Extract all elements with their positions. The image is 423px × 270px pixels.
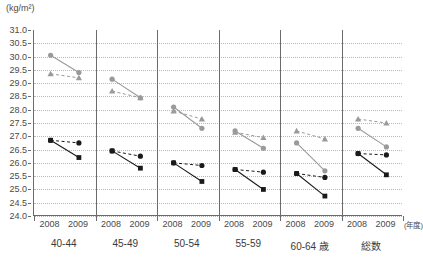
series-line (51, 74, 79, 78)
data-point-marker (199, 163, 204, 168)
data-point-marker (356, 126, 361, 131)
data-point-marker (76, 140, 81, 145)
x-axis-year-label: 2009 (191, 219, 211, 229)
data-point-marker (261, 187, 266, 192)
x-axis-year-label: 2008 (40, 219, 60, 229)
y-axis-tick-mark (28, 189, 31, 190)
y-axis-tick-label: 27.5 (0, 118, 27, 128)
x-axis-year-label: 2009 (252, 219, 272, 229)
data-point-marker (199, 179, 204, 184)
y-axis-unit-label: (kg/m²) (6, 3, 35, 13)
x-axis-year-labels: 2008200920082009200820092008200920082009… (33, 219, 402, 235)
y-axis-tick-mark (28, 150, 31, 151)
data-point-marker (199, 116, 205, 122)
series-line (358, 119, 386, 123)
x-axis-group-label: 55-59 (235, 238, 261, 249)
data-point-marker (76, 155, 81, 160)
series-line (358, 154, 386, 175)
data-point-marker (48, 53, 53, 58)
x-axis-year-label: 2008 (163, 219, 183, 229)
series-line (235, 170, 263, 173)
y-axis-tick-label: 24.5 (0, 198, 27, 208)
data-point-marker (294, 171, 299, 176)
x-axis-year-label: 2008 (101, 219, 121, 229)
data-series-layer (34, 30, 403, 216)
data-point-marker (356, 151, 361, 156)
data-point-marker (322, 194, 327, 199)
series-line (358, 154, 386, 155)
data-point-marker (199, 126, 204, 131)
data-point-marker (171, 160, 176, 165)
year-unit-note: (年度) (404, 219, 423, 230)
data-point-marker (48, 71, 54, 77)
y-axis-tick-mark (28, 203, 31, 204)
y-axis-tick-mark (28, 83, 31, 84)
y-axis-tick-label: 25.0 (0, 184, 27, 194)
data-point-marker (76, 70, 81, 75)
x-axis-year-label: 2008 (286, 219, 306, 229)
series-line (112, 151, 140, 168)
y-axis-tick-label: 30.0 (0, 52, 27, 62)
data-point-marker (355, 116, 361, 122)
y-axis-tick-mark (28, 216, 31, 217)
series-line (174, 163, 202, 182)
y-axis-tick-mark (28, 136, 31, 137)
data-point-marker (261, 146, 266, 151)
y-axis-tick-label: 30.5 (0, 38, 27, 48)
y-axis-tick-mark (28, 57, 31, 58)
series-line (297, 143, 325, 171)
x-axis-year-label: 2009 (375, 219, 395, 229)
y-axis-tick-mark (28, 43, 31, 44)
x-axis-year-label: 2008 (347, 219, 367, 229)
data-point-marker (48, 138, 53, 143)
y-axis-tick-label: 31.0 (0, 25, 27, 35)
data-point-marker (76, 75, 82, 81)
data-point-marker (110, 148, 115, 153)
y-axis-tick-mark (28, 70, 31, 71)
y-axis-tick-label: 29.0 (0, 78, 27, 88)
x-axis-group-label: 50-54 (174, 238, 200, 249)
data-point-marker (138, 154, 143, 159)
x-axis-year-label: 2008 (224, 219, 244, 229)
data-point-marker (383, 120, 389, 126)
series-line (297, 131, 325, 139)
data-point-marker (384, 144, 389, 149)
y-axis-tick-mark (28, 176, 31, 177)
y-axis-tick-mark (28, 30, 31, 31)
data-point-marker (294, 128, 300, 134)
series-line (358, 128, 386, 147)
x-axis-group-label: 45-49 (112, 238, 138, 249)
series-line (112, 79, 140, 98)
y-axis-tick-label: 27.0 (0, 131, 27, 141)
y-axis-tick-mark (28, 96, 31, 97)
data-point-marker (384, 152, 389, 157)
series-line (51, 55, 79, 72)
data-point-marker (109, 88, 115, 94)
y-axis-tick-label: 26.5 (0, 145, 27, 155)
x-axis-year-label: 2009 (68, 219, 88, 229)
data-point-marker (294, 140, 299, 145)
x-axis-year-label: 2009 (314, 219, 334, 229)
y-axis-tick-label: 25.5 (0, 171, 27, 181)
y-axis-tick-mark (28, 110, 31, 111)
y-axis-tick-label: 29.5 (0, 65, 27, 75)
y-axis-tick-mark (28, 123, 31, 124)
data-point-marker (233, 167, 238, 172)
y-axis-tick-label: 24.0 (0, 211, 27, 221)
plot-area (33, 30, 402, 216)
y-axis-tick-label: 26.0 (0, 158, 27, 168)
series-line (235, 170, 263, 190)
data-point-marker (322, 175, 327, 180)
x-axis-group-label: 40-44 (51, 238, 77, 249)
series-line (235, 131, 263, 148)
data-point-marker (384, 172, 389, 177)
y-axis-tick-mark (28, 163, 31, 164)
y-axis-tick-label: 28.0 (0, 105, 27, 115)
x-axis-group-label: 60-64 歳 (291, 238, 329, 253)
x-axis-year-label: 2009 (129, 219, 149, 229)
x-axis-group-label: 総数 (361, 238, 381, 253)
y-axis-tick-label: 28.5 (0, 91, 27, 101)
data-point-marker (261, 170, 266, 175)
x-axis-group-labels: 40-4445-4950-5455-5960-64 歳総数 (33, 238, 402, 256)
